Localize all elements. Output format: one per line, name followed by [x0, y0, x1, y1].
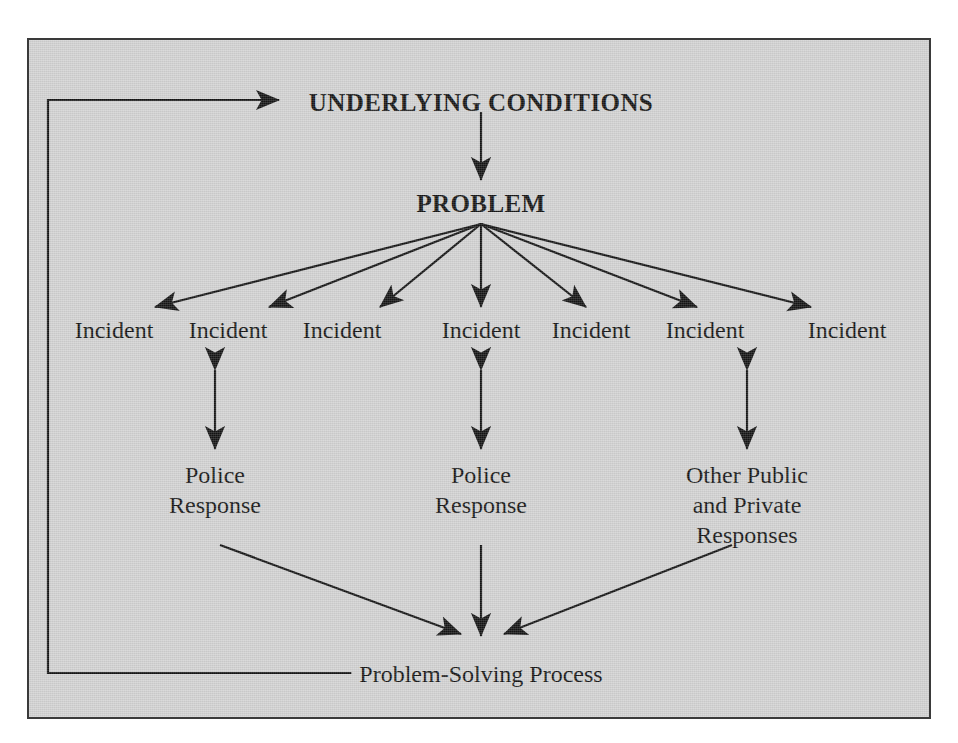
label-layer: UNDERLYING CONDITIONS PROBLEM Incident I…	[29, 40, 931, 719]
node-incident-3: Incident	[303, 315, 382, 345]
node-incident-2: Incident	[189, 315, 268, 345]
police-response-left-line2: Response	[100, 490, 330, 520]
node-police-response-left: Police Response	[100, 460, 330, 520]
other-responses-line2: and Private	[632, 490, 862, 520]
node-police-response-middle: Police Response	[366, 460, 596, 520]
node-problem: PROBLEM	[416, 188, 545, 220]
figure-page: UNDERLYING CONDITIONS PROBLEM Incident I…	[0, 0, 958, 743]
police-response-left-line1: Police	[100, 460, 330, 490]
node-underlying-conditions: UNDERLYING CONDITIONS	[309, 87, 653, 119]
node-incident-1: Incident	[75, 315, 154, 345]
node-problem-solving-process: Problem-Solving Process	[351, 659, 610, 689]
police-response-middle-line1: Police	[366, 460, 596, 490]
node-incident-7: Incident	[808, 315, 887, 345]
other-responses-line1: Other Public	[632, 460, 862, 490]
node-incident-5: Incident	[552, 315, 631, 345]
diagram-plate: UNDERLYING CONDITIONS PROBLEM Incident I…	[27, 38, 931, 719]
node-incident-4: Incident	[442, 315, 521, 345]
node-other-public-private-responses: Other Public and Private Responses	[632, 460, 862, 551]
other-responses-line3: Responses	[632, 520, 862, 550]
node-incident-6: Incident	[666, 315, 745, 345]
police-response-middle-line2: Response	[366, 490, 596, 520]
